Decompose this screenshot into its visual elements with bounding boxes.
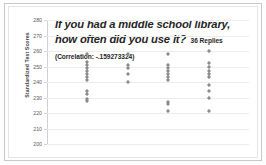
y-tick-label: 270	[33, 33, 42, 39]
plot-area: 280270260250240230220210200	[47, 20, 249, 144]
gridline	[47, 113, 249, 114]
y-tick-mark	[44, 82, 47, 83]
gridline	[47, 98, 249, 99]
data-point	[126, 72, 130, 76]
data-point	[206, 83, 210, 87]
data-point	[126, 52, 130, 56]
y-tick-mark	[44, 20, 47, 21]
data-point	[206, 49, 210, 53]
gridline	[47, 67, 249, 68]
data-point	[206, 95, 210, 99]
data-point	[126, 66, 130, 70]
y-tick-label: 210	[33, 126, 42, 132]
y-tick-mark	[44, 129, 47, 130]
y-tick-label: 250	[33, 64, 42, 70]
data-point	[85, 52, 89, 56]
gridline	[47, 82, 249, 83]
data-point	[166, 52, 170, 56]
y-tick-label: 240	[33, 79, 42, 85]
data-point	[85, 92, 89, 96]
data-point	[206, 75, 210, 79]
data-point	[126, 80, 130, 84]
y-axis-title: Standardized Test Scores	[24, 25, 30, 105]
gridline	[47, 36, 249, 37]
y-tick-label: 220	[33, 110, 42, 116]
y-tick-mark	[44, 67, 47, 68]
gridline	[47, 20, 249, 21]
y-tick-label: 230	[33, 95, 42, 101]
y-tick-label: 260	[33, 48, 42, 54]
gridline	[47, 129, 249, 130]
screenshot-frame: If you had a middle school library, how …	[0, 0, 266, 165]
y-tick-mark	[44, 36, 47, 37]
scatter-chart: If you had a middle school library, how …	[9, 7, 257, 157]
y-tick-mark	[44, 98, 47, 99]
y-tick-mark	[44, 144, 47, 145]
y-tick-mark	[44, 113, 47, 114]
gridline	[47, 144, 249, 145]
y-tick-label: 280	[33, 17, 42, 23]
y-tick-mark	[44, 51, 47, 52]
data-point	[206, 89, 210, 93]
gridline	[47, 51, 249, 52]
y-tick-label: 200	[33, 141, 42, 147]
